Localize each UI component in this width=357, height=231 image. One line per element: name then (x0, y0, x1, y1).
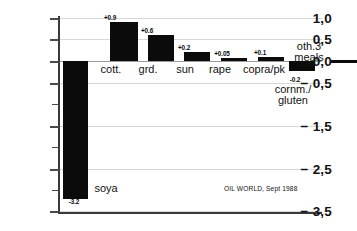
ytick-m3-0 (52, 190, 59, 191)
ytick-0-0 (50, 61, 59, 63)
value-label-cott: +0.9 (96, 14, 124, 21)
category-label-cornm-gluten-line2: gluten (262, 95, 324, 107)
category-label-copra-pk: copra/pk (238, 64, 290, 76)
ytick-m0-5 (50, 83, 59, 85)
ytick-label-m1-5: − 1,5 (280, 119, 332, 134)
value-label-grd: +0.6 (134, 27, 160, 34)
category-label-rape: rape (203, 64, 237, 76)
ytick-m1-0 (52, 104, 59, 105)
ytick-0-5 (50, 39, 59, 41)
ytick-m3-5 (50, 211, 59, 213)
ytick-m2-0 (52, 147, 59, 148)
category-label-cott: cott. (94, 64, 128, 76)
bar-rape (221, 58, 247, 61)
bar-soya (63, 61, 88, 199)
bar-oth-3-meals (331, 60, 357, 63)
value-label-copra-pk: +0.1 (245, 49, 275, 56)
ytick-m1-5 (50, 126, 59, 128)
value-label-sun: +0.2 (171, 44, 197, 51)
ytick-1-0 (50, 18, 59, 20)
value-label-cornm-gluten: -0.2 (281, 76, 309, 83)
category-label-grd: grd. (132, 64, 164, 76)
source-note: OIL WORLD, Sept 1988 (224, 185, 298, 192)
y-axis-line (58, 16, 60, 214)
ytick-label-m2-5: − 2,5 (280, 162, 332, 177)
ytick-m2-5 (50, 169, 59, 171)
category-label-oth-3-meals-line2: meals (288, 52, 330, 64)
ytick-label-1-0: 1,0 (280, 11, 332, 26)
value-label-rape: +0.05 (205, 50, 239, 57)
ytick-label-m3-5: − 3,5 (280, 204, 332, 219)
category-label-sun: sun (169, 64, 201, 76)
category-label-soya: soya (84, 183, 128, 195)
value-label-soya: -3.2 (60, 198, 88, 205)
